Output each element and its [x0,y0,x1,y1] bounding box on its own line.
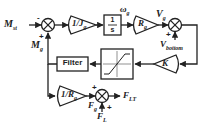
v-g-label: Vg [156,9,166,21]
filter-label: Filter [57,59,88,67]
sum3-plus-bottom-sign: + [107,104,112,112]
summing-junction-1 [42,19,55,32]
f-lt-output-label: FLT [123,91,136,102]
v-bottom-label: Vbottom [160,40,183,51]
gain-inv-rg-label: 1/Rg [61,90,77,101]
omega-g-label: ωg [120,5,130,16]
gain-k-label: K [162,59,168,68]
f-g-label: Fg [88,101,97,112]
input-m-st-label: Mst [4,19,17,31]
gain-inv-jg-label: 1/Jg [72,19,87,30]
input-m-g-label: Mg [31,40,43,52]
summing-junction-3 [96,90,109,103]
gain-rg-label: Rg [138,19,147,30]
sum1-minus-sign: - [37,14,40,22]
sum2-plus-sign: + [166,31,171,39]
integrator-denominator: s [104,26,121,33]
f-l-label: FL [97,112,107,123]
sum3-plus-left-sign: + [92,84,97,92]
integrator-numerator: 1 [104,16,121,23]
